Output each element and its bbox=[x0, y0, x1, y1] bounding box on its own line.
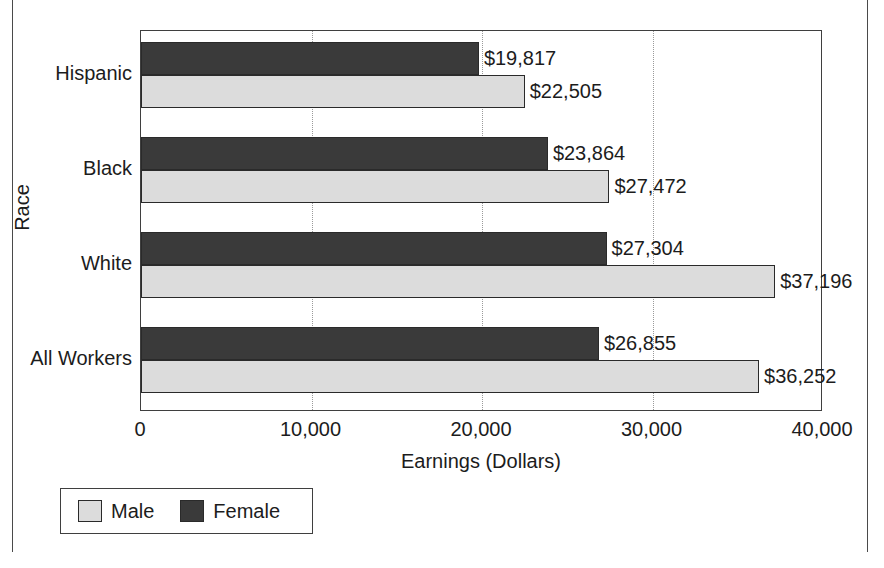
x-tick-0: 0 bbox=[134, 418, 145, 441]
bar-value-male-all-workers: $36,252 bbox=[759, 360, 836, 393]
legend-label-male: Male bbox=[111, 500, 154, 523]
bar-value-male-white: $37,196 bbox=[775, 265, 852, 298]
bar-female-black bbox=[141, 137, 548, 170]
bar-value-male-hispanic: $22,505 bbox=[525, 75, 602, 108]
bar-value-female-all-workers: $26,855 bbox=[599, 327, 676, 360]
legend-item-female: Female bbox=[180, 500, 280, 523]
bar-group-white: $27,304$37,196 bbox=[141, 232, 821, 298]
legend-item-male: Male bbox=[78, 500, 154, 523]
chart-legend: MaleFemale bbox=[60, 488, 313, 534]
legend-swatch-female bbox=[180, 500, 204, 522]
x-axis-title: Earnings (Dollars) bbox=[140, 450, 822, 473]
y-axis-label-all-workers: All Workers bbox=[0, 347, 132, 370]
bar-male-hispanic bbox=[141, 75, 525, 108]
x-tick-40000: 40,000 bbox=[791, 418, 852, 441]
bar-group-hispanic: $19,817$22,505 bbox=[141, 42, 821, 108]
legend-label-female: Female bbox=[213, 500, 280, 523]
x-tick-10000: 10,000 bbox=[280, 418, 341, 441]
legend-swatch-male bbox=[78, 500, 102, 522]
bar-value-male-black: $27,472 bbox=[609, 170, 686, 203]
plot-area: $19,817$22,505$23,864$27,472$27,304$37,1… bbox=[140, 30, 822, 411]
bar-value-female-white: $27,304 bbox=[607, 232, 684, 265]
plot-inner: $19,817$22,505$23,864$27,472$27,304$37,1… bbox=[141, 31, 821, 410]
y-axis-label-white: White bbox=[0, 252, 132, 275]
bar-female-all-workers bbox=[141, 327, 599, 360]
x-tick-20000: 20,000 bbox=[450, 418, 511, 441]
bar-male-all-workers bbox=[141, 360, 759, 393]
bar-value-female-hispanic: $19,817 bbox=[479, 42, 556, 75]
bar-value-female-black: $23,864 bbox=[548, 137, 625, 170]
bar-female-hispanic bbox=[141, 42, 479, 75]
y-axis-label-black: Black bbox=[0, 157, 132, 180]
clipped-title-fragment bbox=[36, 0, 456, 2]
y-axis-category-labels: HispanicBlackWhiteAll Workers bbox=[0, 30, 132, 411]
chart-figure: Race HispanicBlackWhiteAll Workers $19,8… bbox=[0, 0, 884, 568]
bar-group-black: $23,864$27,472 bbox=[141, 137, 821, 203]
bar-male-white bbox=[141, 265, 775, 298]
y-axis-label-hispanic: Hispanic bbox=[0, 62, 132, 85]
x-tick-30000: 30,000 bbox=[621, 418, 682, 441]
bar-female-white bbox=[141, 232, 607, 265]
bar-male-black bbox=[141, 170, 609, 203]
bar-group-all-workers: $26,855$36,252 bbox=[141, 327, 821, 393]
